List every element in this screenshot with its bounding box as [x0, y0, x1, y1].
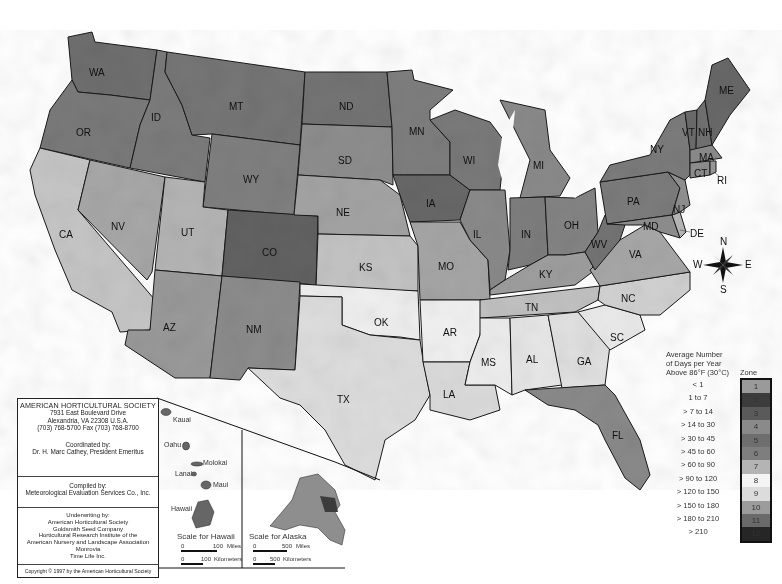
alaska-miles-value: 500 [282, 543, 292, 549]
alaska-miles-zero: 0 [253, 543, 256, 549]
state-label-tn: TN [525, 302, 538, 313]
island-label-oahu: Oahu [164, 441, 181, 448]
state-label-mt: MT [229, 101, 243, 112]
credits-box: AMERICAN HORTICULTURAL SOCIETY 7931 East… [17, 398, 159, 578]
legend-range-1: < 1 [658, 378, 738, 391]
compass-e: E [745, 259, 752, 270]
state-label-ga: GA [577, 356, 592, 367]
state-label-sc: SC [610, 332, 624, 343]
state-label-wy: WY [243, 174, 259, 185]
legend-range-4: > 14 to 30 [658, 418, 738, 431]
legend-range-10: > 150 to 180 [658, 499, 738, 512]
state-label-fl: FL [612, 430, 624, 441]
state-label-ut: UT [181, 227, 194, 238]
state-label-tx: TX [337, 394, 350, 405]
alaska-miles-unit: Miles [296, 543, 310, 549]
state-label-ms: MS [481, 357, 496, 368]
legend-range-6: > 45 to 60 [658, 445, 738, 458]
underwriter: American Nursery and Landscape Associati… [19, 539, 157, 546]
coordinated-label: Coordinated by: [19, 441, 157, 448]
hawaii-km-value: 100 [201, 556, 211, 562]
alaska-km-value: 500 [270, 556, 280, 562]
hawaii-miles-bar [181, 550, 217, 552]
hawaii-km-zero: 0 [181, 556, 184, 562]
zone-column-label: Zone [740, 368, 757, 377]
underwriter: Goldsmith Seed Company [19, 526, 157, 533]
state-label-ok: OK [374, 317, 389, 328]
copyright: Copyright © 1997 by the American Horticu… [18, 565, 158, 575]
island-label-hawaii: Hawaii [171, 505, 192, 512]
state-label-pa: PA [627, 196, 640, 207]
state-label-md: MD [643, 221, 659, 232]
alaska-scale-title: Scale for Alaska [249, 532, 306, 541]
state-label-al: AL [526, 354, 539, 365]
state-label-in: IN [521, 229, 531, 240]
legend-range-11: > 180 to 210 [658, 512, 738, 525]
legend-range-7: > 60 to 90 [658, 458, 738, 471]
state-fl [525, 385, 650, 490]
hawaii-miles-value: 100 [213, 543, 223, 549]
zone-swatch-4: 4 [742, 420, 770, 433]
state-nd [302, 72, 392, 127]
state-label-ks: KS [359, 262, 373, 273]
legend-ranges: < 11 to 7> 7 to 14> 14 to 30> 30 to 45> … [658, 378, 738, 539]
state-label-id: ID [151, 112, 161, 123]
state-wa [68, 32, 157, 100]
state-label-sd: SD [338, 155, 352, 166]
hawaii-miles-unit: Miles [227, 543, 241, 549]
hawaii-km-unit: Kilometers [214, 556, 242, 562]
state-label-mi: MI [533, 160, 544, 171]
zone-swatch-2: 2 [742, 393, 770, 406]
compiled-by: Meteorological Evaluation Services Co., … [19, 489, 157, 496]
state-label-ct: CT [694, 168, 707, 179]
state-label-il: IL [473, 229, 482, 240]
legend-range-2: 1 to 7 [658, 391, 738, 404]
legend-heading-line3: Above 86°F (30°C) [666, 368, 729, 377]
zone-swatch-12: 12 [742, 527, 770, 540]
legend-heading-line1: Average Number [666, 350, 729, 359]
state-label-me: ME [719, 85, 734, 96]
state-label-ky: KY [539, 269, 553, 280]
zone-swatch-11: 11 [742, 514, 770, 527]
state-label-ma: MA [699, 152, 714, 163]
hawaii-miles-zero: 0 [181, 543, 184, 549]
coordinated-by: Dr. H. Marc Cathey, President Emeritus [19, 448, 157, 455]
hawaii-km-bar [181, 563, 203, 565]
org-address-line1: 7931 East Boulevard Drive [19, 409, 157, 416]
zone-swatch-8: 8 [742, 474, 770, 487]
zone-swatch-3: 3 [742, 407, 770, 420]
underwriter: Monrovia [19, 546, 157, 553]
underwriting-label: Underwriting by: [19, 512, 157, 519]
state-label-ia: IA [426, 198, 436, 209]
state-label-vt: VT [682, 127, 695, 138]
state-label-nh: NH [698, 127, 712, 138]
zone-swatch-10: 10 [742, 501, 770, 514]
underwriter: Horticultural Research Institute of the [19, 532, 157, 539]
legend-heading: Average Number of Days per Year Above 86… [666, 350, 729, 377]
state-label-nc: NC [621, 293, 635, 304]
legend-range-12: > 210 [658, 525, 738, 538]
legend-range-3: > 7 to 14 [658, 405, 738, 418]
zone-swatch-7: 7 [742, 460, 770, 473]
zone-swatch-1: 1 [742, 380, 770, 393]
underwriter: Time Life Inc. [19, 553, 157, 560]
org-phone: (703) 768-5700 Fax (703) 768-8700 [19, 424, 157, 431]
alaska-km-unit: Kilometers [283, 556, 311, 562]
state-label-mn: MN [409, 126, 425, 137]
state-label-wi: WI [463, 155, 475, 166]
compass-rose: N S W E [693, 236, 752, 295]
zone-swatch-9: 9 [742, 487, 770, 500]
state-label-de: DE [690, 228, 704, 239]
state-label-la: LA [443, 389, 456, 400]
legend-range-8: > 90 to 120 [658, 472, 738, 485]
compass-w: W [693, 259, 703, 270]
legend-heading-line2: of Days per Year [666, 359, 729, 368]
state-label-mo: MO [438, 261, 454, 272]
hawaii-scale-title: Scale for Hawaii [177, 532, 235, 541]
island-label-maui: Maui [213, 481, 228, 488]
legend-range-5: > 30 to 45 [658, 432, 738, 445]
state-ny [600, 112, 690, 182]
alaska-km-bar [253, 563, 275, 565]
island-label-molokai: Molokai [203, 459, 227, 466]
alaska-miles-bar [253, 550, 287, 552]
